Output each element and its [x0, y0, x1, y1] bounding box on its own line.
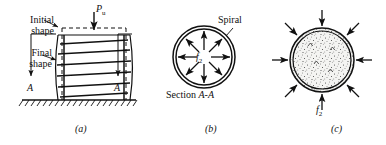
figure-canvas [0, 0, 386, 145]
section-aa-label: Section A-A [166, 89, 214, 100]
final-shape-outline [56, 35, 133, 100]
panel-c-confined-core [272, 10, 372, 110]
ground-hatching [19, 100, 137, 106]
final-shape-label-line2: shape [29, 58, 52, 69]
concrete-core-outer-ring [290, 28, 354, 92]
panel-b-section-aa [173, 26, 235, 88]
stress-label-f2-panel-b: f2 [196, 51, 202, 65]
section-letter-left: A [27, 82, 33, 93]
initial-shape-label-line2: shape [31, 25, 54, 36]
figure-spiral-column-confinement: Initial shape Final shape Pu A A Spiral … [0, 0, 386, 145]
initial-shape-label-line1: Initial [30, 14, 54, 25]
spiral-label: Spiral [218, 14, 242, 25]
section-aa-letter2: A [208, 89, 214, 100]
load-subscript: u [102, 9, 106, 17]
section-letter-right: A [114, 82, 120, 93]
section-aa-word: Section [166, 89, 199, 100]
stress-label-f2-panel-c: f2 [316, 104, 322, 118]
leader-spiral-label [226, 28, 233, 36]
radial-arrows-outward [178, 31, 230, 83]
final-shape-label: Final shape [4, 47, 52, 69]
caption-c: (c) [331, 123, 342, 134]
initial-shape-label: Initial shape [6, 14, 54, 36]
final-shape-label-line1: Final [31, 47, 52, 58]
caption-a: (a) [75, 123, 87, 134]
caption-b: (b) [205, 123, 217, 134]
stress-subscript-b: 2 [199, 57, 203, 65]
load-label-pu: Pu [96, 3, 106, 17]
stress-subscript-c: 2 [319, 110, 323, 118]
